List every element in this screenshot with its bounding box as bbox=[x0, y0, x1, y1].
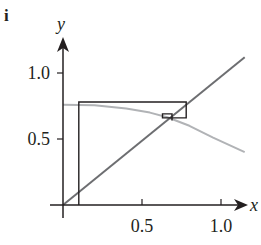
x-axis-label: x bbox=[249, 195, 258, 215]
panel-label: i bbox=[4, 6, 9, 25]
y-tick-label: 1.0 bbox=[28, 63, 51, 83]
x-tick-label: 1.0 bbox=[210, 216, 233, 236]
cobweb-diagram: ixy0.51.00.51.0 bbox=[0, 0, 261, 245]
y-axis-label: y bbox=[55, 14, 65, 34]
x-tick-label: 0.5 bbox=[131, 216, 154, 236]
map-curve bbox=[63, 105, 245, 153]
identity-line bbox=[63, 57, 245, 205]
cobweb-path bbox=[79, 102, 186, 205]
y-tick-label: 0.5 bbox=[28, 129, 51, 149]
